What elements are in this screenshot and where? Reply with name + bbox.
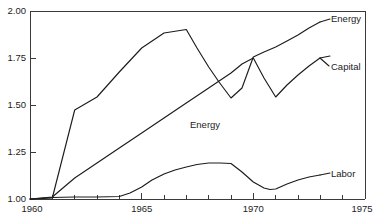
x-tick-label-1970: 1970 [243,203,264,214]
plot-frame [30,11,365,199]
x-axis-ticks [30,193,365,199]
series-label-energy-top: Energy [331,13,361,24]
series-label-energy-mid: Energy [190,119,220,130]
line-chart: 1.00 1.25 1.50 1.75 2.00 1960 1965 1970 … [0,0,379,219]
series-label-labor: Labor [331,168,355,179]
series-line-labor [30,163,320,199]
series-label-capital: Capital [331,61,361,72]
y-tick-label-2-00: 2.00 [8,5,27,16]
capital-label-leader [320,58,329,66]
y-tick-label-1-75: 1.75 [8,52,27,63]
y-axis-ticks [30,11,36,199]
y-tick-label-1-50: 1.50 [8,99,27,110]
x-axis-labels: 1960 1965 1970 1975 [21,203,372,214]
x-tick-label-1975: 1975 [351,203,372,214]
label-leaders [320,19,330,175]
chart-canvas: 1.00 1.25 1.50 1.75 2.00 1960 1965 1970 … [0,0,379,219]
y-tick-label-1-25: 1.25 [8,146,27,157]
x-tick-label-1960: 1960 [21,203,42,214]
series-line-capital [30,58,320,199]
x-tick-label-1965: 1965 [131,203,152,214]
y-axis-labels: 1.00 1.25 1.50 1.75 2.00 [8,5,27,204]
